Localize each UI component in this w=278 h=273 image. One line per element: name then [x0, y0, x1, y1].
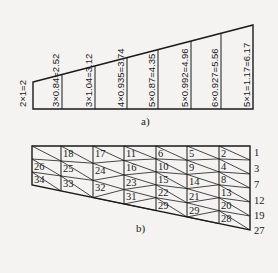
node-label: 16 — [126, 162, 137, 173]
column-label: 6×0.927=5.56 — [209, 48, 220, 107]
node-label: 34 — [34, 174, 45, 185]
mesh-edge — [219, 159, 250, 160]
column-label: 4×0.935=3.74 — [115, 48, 126, 107]
column-label: 3×0.84=2.52 — [50, 54, 61, 107]
node-label: 21 — [189, 191, 200, 202]
right-edge-label: 7 — [254, 179, 259, 190]
column-label: 5×0.992=4.96 — [179, 48, 190, 107]
node-label: 32 — [95, 182, 106, 193]
node-label: 8 — [221, 174, 226, 185]
node-label: 6 — [158, 148, 163, 159]
node-label: 11 — [126, 148, 136, 159]
node-label: 22 — [158, 187, 169, 198]
node-label: 20 — [221, 200, 232, 211]
right-edge-label: 3 — [254, 163, 259, 174]
node-label: 28 — [221, 213, 232, 224]
column-label: 5×1=1.17=6.17 — [241, 43, 252, 107]
right-edge-label: 27 — [254, 225, 265, 236]
caption-b: b) — [136, 222, 146, 235]
mesh-diagonal — [93, 198, 124, 204]
right-edge-label: 1 — [254, 147, 259, 158]
node-label: 29 — [158, 200, 169, 211]
caption-a: a) — [141, 115, 150, 128]
trapezoid-outline — [33, 25, 253, 109]
mesh-edge — [124, 159, 156, 161]
column-label: 5×0.87=4.35 — [146, 54, 157, 107]
mesh-diagonal — [32, 146, 61, 161]
figure-a-trapezoid: 2×1=23×0.84=2.523×1.04=3.124×0.935=3.745… — [17, 25, 253, 128]
figure-b-mesh: 2634182533172432111623316101522295914212… — [32, 146, 265, 236]
node-label: 25 — [63, 163, 74, 174]
node-label: 18 — [63, 148, 74, 159]
mesh-figure: 2×1=23×0.84=2.523×1.04=3.124×0.935=3.745… — [0, 0, 278, 273]
node-label: 5 — [189, 148, 194, 159]
node-label: 2 — [221, 148, 226, 159]
node-label: 17 — [95, 148, 106, 159]
node-label: 31 — [126, 191, 137, 202]
right-edge-label: 12 — [254, 195, 265, 206]
column-label: 2×1=2 — [17, 80, 28, 107]
right-edge-label: 19 — [254, 210, 265, 221]
node-label: 4 — [221, 161, 227, 172]
node-label: 13 — [221, 187, 232, 198]
node-label: 10 — [158, 161, 169, 172]
node-label: 14 — [189, 176, 200, 187]
mesh-diagonal — [187, 217, 219, 224]
mesh-diagonal — [124, 204, 156, 211]
mesh-edge — [93, 160, 124, 163]
column-label: 3×1.04=3.12 — [83, 54, 94, 107]
node-label: 15 — [158, 174, 169, 185]
node-label: 29 — [189, 205, 200, 216]
node-label: 24 — [95, 165, 106, 176]
mesh-edge — [187, 159, 219, 160]
node-label: 33 — [63, 178, 74, 189]
node-label: 23 — [126, 177, 137, 188]
node-label: 9 — [189, 162, 194, 173]
node-label: 26 — [34, 161, 45, 172]
